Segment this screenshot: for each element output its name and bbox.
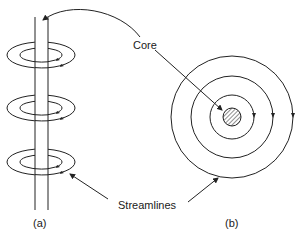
core-circle [223, 108, 241, 126]
panel-a [7, 17, 75, 210]
flow-arrow-icon [252, 113, 256, 118]
panel-b [171, 56, 295, 178]
streamlines-arrow-b [188, 178, 218, 202]
core-curve-leader [43, 9, 140, 37]
flow-arrow-icon [291, 113, 295, 118]
streamlines-arrow-a [70, 174, 108, 199]
panel-a-label: (a) [33, 217, 46, 229]
panel-b-label: (b) [225, 217, 238, 229]
vortex-diagram: Core Streamlines (a) (b) [0, 0, 298, 237]
streamlines-label: Streamlines [118, 199, 177, 211]
flow-arrow-icon [271, 113, 275, 118]
core-label: Core [133, 39, 157, 51]
